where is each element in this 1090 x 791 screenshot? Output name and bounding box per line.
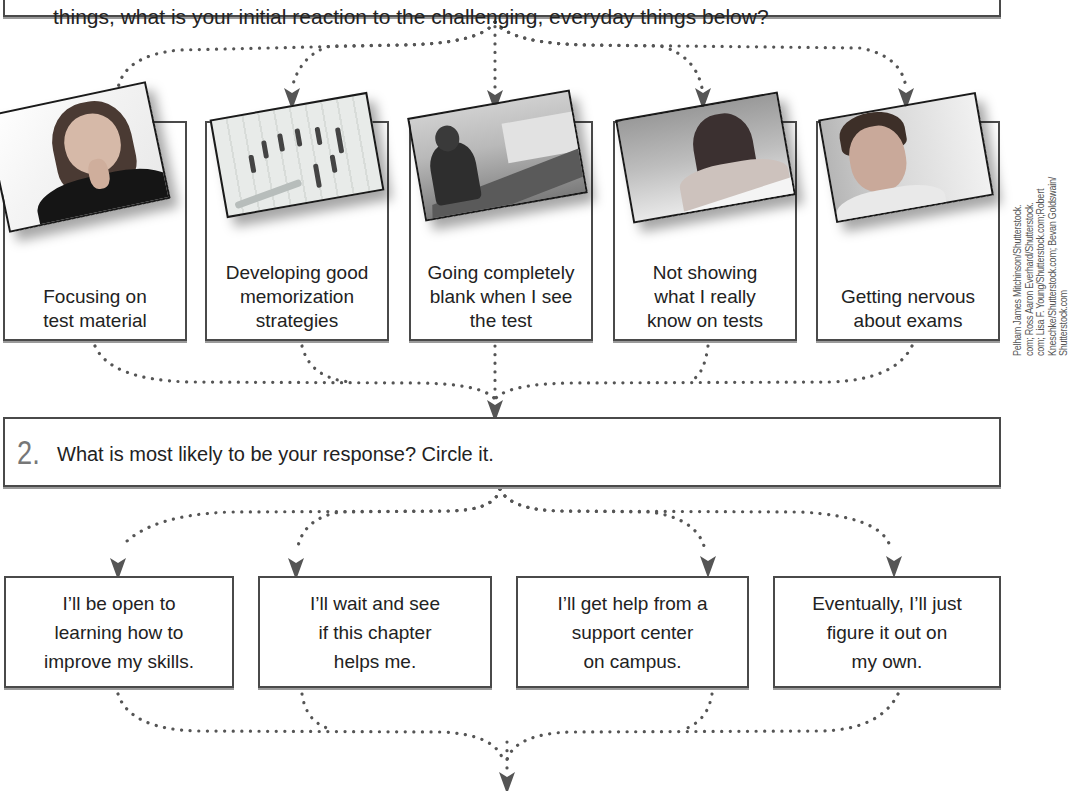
response-option-open-to-learning[interactable]: I’ll be open to learning how to improve … (4, 576, 234, 688)
concern-card-nervous[interactable]: Getting nervous about exams (816, 121, 1000, 341)
question2-box: 2. What is most likely to be your respon… (3, 417, 1001, 487)
concern-label: Not showing what I really know on tests (615, 261, 795, 333)
question1-text: things, what is your initial reaction to… (53, 5, 769, 29)
concern-card-focusing[interactable]: Focusing on test material (3, 121, 187, 341)
concern-label: Developing good memorization strategies (207, 261, 387, 333)
question1-box: things, what is your initial reaction to… (3, 0, 1001, 17)
answer-sheet-photo (210, 92, 385, 218)
response-option-figure-it-out[interactable]: Eventually, I’ll just figure it out on m… (773, 576, 1001, 688)
response-option-wait-and-see[interactable]: I’ll wait and see if this chapter helps … (258, 576, 492, 688)
question2-text: What is most likely to be your response?… (57, 442, 494, 466)
concern-label: Going completely blank when I see the te… (411, 261, 591, 333)
woman-thinking-photo (0, 81, 171, 233)
response-option-support-center[interactable]: I’ll get help from a support center on c… (516, 576, 749, 688)
concern-label: Focusing on test material (5, 285, 185, 333)
photo-credit: Pelham James Mitchinson/Shutterstock. co… (1012, 177, 1070, 356)
man-taking-test-photo (407, 89, 588, 221)
question-number: 2. (17, 432, 40, 472)
woman-taking-test-photo (615, 91, 796, 223)
concern-card-memorization[interactable]: Developing good memorization strategies (205, 121, 389, 341)
concern-card-going-blank[interactable]: Going completely blank when I see the te… (409, 121, 593, 341)
concern-card-not-showing[interactable]: Not showing what I really know on tests (613, 121, 797, 341)
nervous-student-photo (818, 92, 994, 223)
concern-label: Getting nervous about exams (818, 285, 998, 333)
